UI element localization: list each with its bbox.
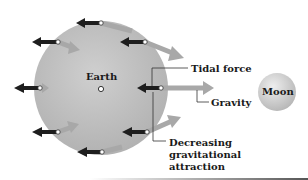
- bottom-divider: [90, 178, 308, 180]
- moon-label: Moon: [262, 87, 294, 97]
- tidal-force-diagram: Earth Moon Tidal force Gravity Decreasin…: [0, 0, 308, 180]
- earth-label: Earth: [86, 72, 117, 82]
- gravity-label: Gravity: [211, 98, 251, 108]
- earth-center-point: [98, 86, 103, 91]
- gravity-arrow-center: [161, 81, 214, 95]
- decreasing-attraction-label: Decreasing gravitational attraction: [169, 137, 279, 173]
- tidal-force-label: Tidal force: [191, 64, 252, 74]
